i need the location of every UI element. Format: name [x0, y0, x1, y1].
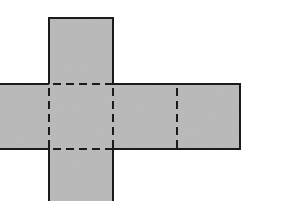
face-texture: [49, 149, 113, 201]
face-texture: [0, 84, 49, 149]
face-texture: [49, 84, 113, 149]
cube-net-diagram: [0, 0, 294, 201]
face-texture: [177, 84, 240, 149]
texture-overlay: [0, 18, 240, 201]
face-texture: [113, 84, 177, 149]
face-texture: [49, 18, 113, 84]
